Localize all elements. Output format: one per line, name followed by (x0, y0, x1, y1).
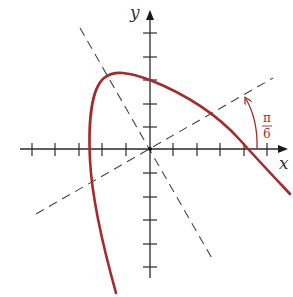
origin-point (148, 147, 152, 151)
angle-label: π 6 (262, 111, 272, 141)
x-axis-label: x (279, 153, 289, 173)
y-axis: y (129, 2, 157, 278)
y-axis-label: y (129, 2, 140, 22)
svg-text:π: π (263, 111, 271, 125)
rotated-x-axis (36, 78, 273, 214)
rotated-axes-diagram: x y π 6 (0, 0, 293, 297)
svg-text:6: 6 (263, 127, 271, 141)
rotation-angle-arc (246, 99, 257, 149)
x-axis: x (20, 143, 289, 173)
conic-curve (90, 73, 290, 293)
